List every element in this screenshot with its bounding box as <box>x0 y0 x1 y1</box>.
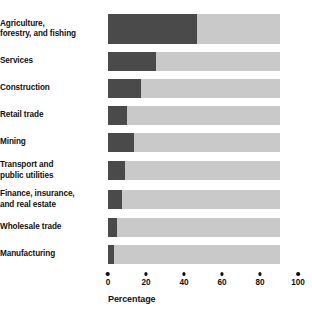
bar-track <box>108 218 280 237</box>
bar-value-segment <box>108 133 134 152</box>
tick-dot-icon <box>296 272 300 276</box>
category-label: Manufacturing <box>0 249 108 260</box>
x-axis-tick-label: 20 <box>141 278 150 287</box>
category-label-line1: Retail trade <box>0 110 102 121</box>
category-label-line1: Manufacturing <box>0 249 102 260</box>
bar-value-segment <box>108 190 122 209</box>
bar-track <box>108 133 280 152</box>
category-label: Transport and public utilities <box>0 160 108 181</box>
category-label: Agriculture, forestry, and fishing <box>0 19 108 40</box>
x-axis-tick: 40 <box>179 272 188 287</box>
category-label: Mining <box>0 137 108 148</box>
category-label: Retail trade <box>0 110 108 121</box>
category-label: Wholesale trade <box>0 222 108 233</box>
bar-track <box>108 14 280 44</box>
category-label-line2: and real estate <box>0 200 102 211</box>
tick-dot-icon <box>106 272 110 276</box>
bar-value-segment <box>108 14 197 44</box>
bar-track <box>108 52 280 71</box>
bar-value-segment <box>108 218 117 237</box>
x-axis-tick-label: 100 <box>291 278 305 287</box>
bar-track <box>108 106 280 125</box>
bar-value-segment <box>108 52 156 71</box>
bar-track <box>108 161 280 180</box>
bar-track <box>108 245 280 264</box>
category-label: Finance, insurance, and real estate <box>0 189 108 210</box>
category-label-line1: Services <box>0 56 102 67</box>
bar-value-segment <box>108 161 125 180</box>
horizontal-bar-chart: Agriculture, forestry, and fishing Servi… <box>0 0 312 318</box>
x-axis: 0 20 40 60 80 100 Percentage <box>108 272 298 318</box>
chart-row: Finance, insurance, and real estate <box>0 189 312 210</box>
category-label-line1: Agriculture, <box>0 19 102 30</box>
bar-track <box>108 79 280 98</box>
x-axis-tick: 0 <box>106 272 111 287</box>
chart-row: Wholesale trade <box>0 218 312 237</box>
chart-row: Transport and public utilities <box>0 160 312 181</box>
chart-row: Mining <box>0 133 312 152</box>
bar-value-segment <box>108 245 114 264</box>
tick-dot-icon <box>258 272 262 276</box>
chart-plot-area: Agriculture, forestry, and fishing Servi… <box>0 14 312 272</box>
category-label-line1: Transport and <box>0 160 102 171</box>
chart-row: Services <box>0 52 312 71</box>
tick-dot-icon <box>182 272 186 276</box>
x-axis-tick-label: 80 <box>255 278 264 287</box>
bar-value-segment <box>108 106 127 125</box>
bar-track <box>108 190 280 209</box>
category-label: Services <box>0 56 108 67</box>
chart-row: Manufacturing <box>0 245 312 264</box>
category-label-line1: Finance, insurance, <box>0 189 102 200</box>
tick-dot-icon <box>144 272 148 276</box>
category-label: Construction <box>0 83 108 94</box>
x-axis-tick-label: 60 <box>217 278 226 287</box>
chart-row: Construction <box>0 79 312 98</box>
category-label-line2: forestry, and fishing <box>0 29 102 40</box>
category-label-line1: Mining <box>0 137 102 148</box>
category-label-line2: public utilities <box>0 171 102 182</box>
chart-row: Retail trade <box>0 106 312 125</box>
tick-dot-icon <box>220 272 224 276</box>
category-label-line1: Wholesale trade <box>0 222 102 233</box>
bar-value-segment <box>108 79 141 98</box>
x-axis-tick: 20 <box>141 272 150 287</box>
x-axis-tick: 60 <box>217 272 226 287</box>
x-axis-tick: 80 <box>255 272 264 287</box>
x-axis-tick-label: 0 <box>106 278 111 287</box>
x-axis-title: Percentage <box>108 294 156 304</box>
chart-row: Agriculture, forestry, and fishing <box>0 14 312 44</box>
x-axis-tick-label: 40 <box>179 278 188 287</box>
x-axis-tick: 100 <box>291 272 305 287</box>
category-label-line1: Construction <box>0 83 102 94</box>
